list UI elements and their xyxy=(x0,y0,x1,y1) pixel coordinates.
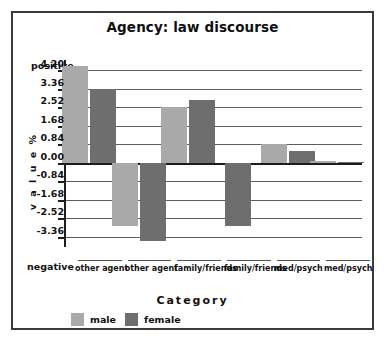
bar-female-5 xyxy=(338,162,364,163)
bar-female-1 xyxy=(140,163,166,241)
bar-male-1 xyxy=(112,163,138,226)
y-tick--0.84 xyxy=(58,181,66,183)
bar-female-0 xyxy=(90,89,116,163)
category-group-4: med/psych xyxy=(274,260,324,273)
gridline-4.20 xyxy=(64,70,362,71)
category-rule-1 xyxy=(128,260,172,261)
legend-swatch-male xyxy=(71,313,84,326)
chart-legend: male female xyxy=(71,313,181,326)
bar-male-0 xyxy=(62,66,88,162)
gridline-0.00 xyxy=(64,163,362,165)
category-label-5: med/psych xyxy=(323,264,373,273)
gridline--1.68 xyxy=(64,200,362,201)
y-tick-label-4.20: 4.20 xyxy=(16,58,64,69)
y-tick-label-0.84: 0.84 xyxy=(16,132,64,143)
y-tick-label-1.68: 1.68 xyxy=(16,114,64,125)
gridline--3.36 xyxy=(64,237,362,238)
bar-female-3 xyxy=(225,163,251,226)
x-axis-title: Category xyxy=(13,294,372,307)
gridline--0.84 xyxy=(64,181,362,182)
category-label-2: family/friends xyxy=(174,264,224,273)
legend-item-male: male xyxy=(71,313,116,326)
chart-title: Agency: law discourse xyxy=(13,19,372,35)
legend-swatch-female xyxy=(125,313,138,326)
y-tick-label-0.00: 0.00 xyxy=(16,151,64,162)
category-group-1: other agent xyxy=(125,260,175,273)
bar-female-2 xyxy=(189,100,215,163)
y-tick-label--3.36: -3.36 xyxy=(16,225,64,236)
legend-label-female: female xyxy=(144,314,181,325)
gridline--2.52 xyxy=(64,218,362,219)
y-tick--3.36 xyxy=(58,237,66,239)
y-tick-label--0.84: -0.84 xyxy=(16,169,64,180)
category-rule-4 xyxy=(277,260,321,261)
category-group-2: family/friends xyxy=(174,260,224,273)
legend-item-female: female xyxy=(125,313,181,326)
category-label-3: family/friends xyxy=(224,264,274,273)
bar-male-4 xyxy=(261,144,287,163)
y-tick--1.68 xyxy=(58,200,66,202)
y-tick-label--2.52: -2.52 xyxy=(16,206,64,217)
chart-frame: Agency: law discourse positive negative … xyxy=(11,11,374,330)
category-rule-2 xyxy=(177,260,221,261)
plot-area xyxy=(64,61,362,246)
y-tick--2.52 xyxy=(58,218,66,220)
category-group-3: family/friends xyxy=(224,260,274,273)
y-tick-0.00 xyxy=(58,163,66,165)
y-tick-label-3.36: 3.36 xyxy=(16,77,64,88)
y-tick-label--1.68: -1.68 xyxy=(16,188,64,199)
category-label-4: med/psych xyxy=(274,264,324,273)
category-rule-0 xyxy=(78,260,122,261)
category-rule-5 xyxy=(326,260,370,261)
category-rule-3 xyxy=(227,260,271,261)
y-tick-label-2.52: 2.52 xyxy=(16,95,64,106)
bar-male-2 xyxy=(161,107,187,163)
bar-male-5 xyxy=(310,161,336,162)
category-label-0: other agent xyxy=(75,264,125,273)
y-axis-negative-label: negative xyxy=(27,261,74,272)
category-group-5: med/psych xyxy=(323,260,373,273)
category-group-0: other agent xyxy=(75,260,125,273)
category-label-1: other agent xyxy=(125,264,175,273)
legend-label-male: male xyxy=(90,314,116,325)
category-axis: other agentother agentfamily/friendsfami… xyxy=(75,260,374,294)
